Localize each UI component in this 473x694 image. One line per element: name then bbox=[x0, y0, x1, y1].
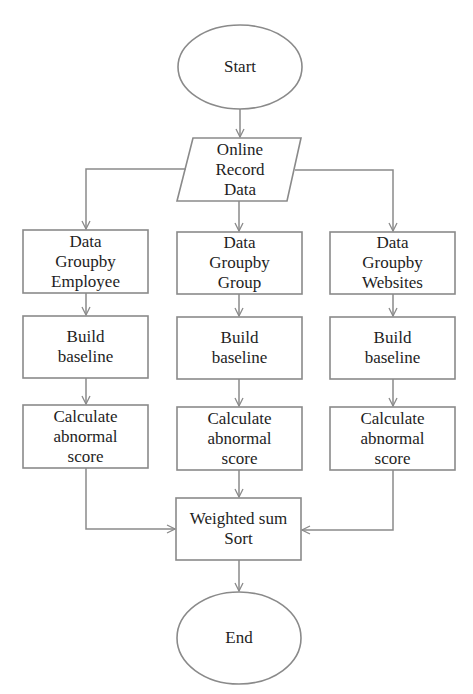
baseline-group-node: Build baseline bbox=[177, 317, 302, 379]
node-label-line: baseline bbox=[365, 348, 421, 368]
input-node: Online Record Data bbox=[185, 138, 295, 201]
flowchart: Start Online Record Data Data Groupby Em… bbox=[0, 0, 473, 694]
node-label-line: Build bbox=[221, 328, 259, 348]
combine-node: Weighted sum Sort bbox=[176, 498, 301, 560]
score-websites-node: Calculate abnormal score bbox=[330, 407, 455, 470]
node-label-line: Websites bbox=[362, 273, 423, 293]
baseline-employee-node: Build baseline bbox=[23, 316, 148, 378]
score-group-node: Calculate abnormal score bbox=[177, 407, 302, 470]
node-label-line: Data bbox=[69, 232, 101, 252]
node-label-line: Build bbox=[67, 327, 105, 347]
node-label-line: baseline bbox=[58, 347, 114, 367]
score-employee-node: Calculate abnormal score bbox=[23, 405, 148, 468]
group-group-node: Data Groupby Group bbox=[177, 232, 302, 294]
node-label-line: Group bbox=[218, 273, 261, 293]
node-label-line: abnormal bbox=[53, 427, 117, 447]
group-websites-node: Data Groupby Websites bbox=[330, 232, 455, 294]
node-label-line: Calculate bbox=[53, 407, 117, 427]
group-employee-node: Data Groupby Employee bbox=[23, 230, 148, 293]
node-label-line: Sort bbox=[224, 529, 252, 549]
edge-websites-combine bbox=[302, 470, 393, 530]
node-label-line: abnormal bbox=[207, 429, 271, 449]
node-label-line: baseline bbox=[212, 348, 268, 368]
node-label-line: Build bbox=[374, 328, 412, 348]
end-node: End bbox=[177, 592, 301, 684]
node-label-line: Groupby bbox=[209, 253, 269, 273]
end-label: End bbox=[225, 628, 252, 648]
node-label-line: Groupby bbox=[362, 253, 422, 273]
node-label-line: Employee bbox=[51, 272, 120, 292]
start-node: Start bbox=[178, 26, 302, 108]
input-label-line: Record bbox=[215, 160, 264, 180]
edge-input-websites bbox=[295, 170, 393, 231]
node-label-line: Weighted sum bbox=[190, 509, 287, 529]
node-label-line: score bbox=[222, 449, 258, 469]
node-label-line: Data bbox=[223, 233, 255, 253]
node-label-line: Data bbox=[376, 233, 408, 253]
baseline-websites-node: Build baseline bbox=[330, 317, 455, 379]
node-label-line: score bbox=[375, 449, 411, 469]
node-label-line: score bbox=[68, 447, 104, 467]
input-label-line: Data bbox=[224, 180, 256, 200]
edge-input-employee bbox=[86, 169, 186, 229]
node-label-line: Calculate bbox=[207, 409, 271, 429]
node-label-line: Groupby bbox=[55, 252, 115, 272]
input-label-line: Online bbox=[217, 140, 263, 160]
node-label-line: Calculate bbox=[360, 409, 424, 429]
start-label: Start bbox=[224, 57, 256, 77]
node-label-line: abnormal bbox=[360, 429, 424, 449]
edge-employee-combine bbox=[86, 468, 175, 529]
